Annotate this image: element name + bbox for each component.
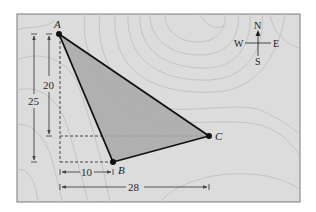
label-c: C (215, 130, 223, 142)
dimension-25-label: 25 (28, 95, 40, 107)
compass-north: N (254, 20, 261, 31)
diagram-canvas: A B C 25 20 10 (0, 0, 316, 212)
map-diagram: A B C 25 20 10 (0, 0, 316, 212)
dimension-28-label: 28 (128, 181, 140, 193)
compass-south: S (255, 56, 261, 67)
dimension-20-label: 20 (43, 79, 55, 91)
compass-west: W (234, 38, 244, 49)
compass-east: E (273, 38, 279, 49)
label-b: B (118, 164, 125, 176)
point-b (110, 159, 116, 165)
point-c (206, 133, 212, 139)
point-a (56, 31, 62, 37)
label-a: A (53, 18, 61, 30)
dimension-10-label: 10 (81, 166, 93, 178)
